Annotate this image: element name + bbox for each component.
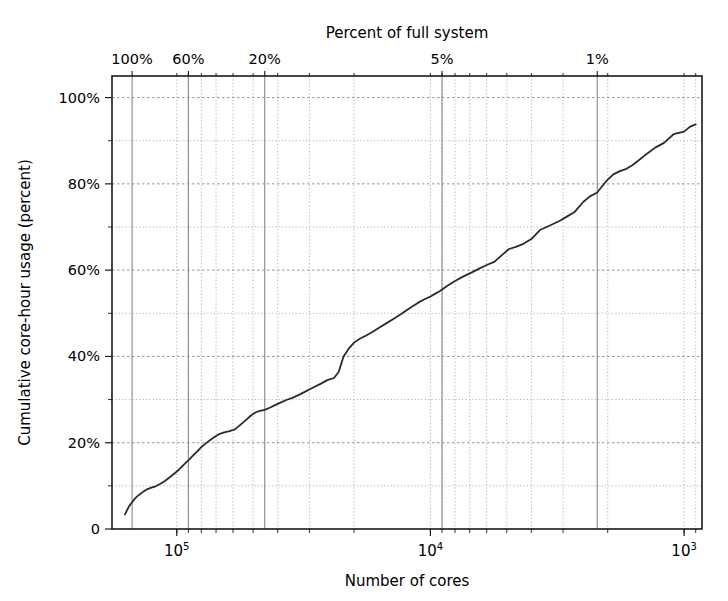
plot-background: [112, 76, 702, 529]
y-tick-label: 40%: [68, 348, 100, 364]
x-axis-title: Number of cores: [345, 572, 470, 590]
chart-canvas: 100%60%20%5%1%105104103020%40%60%80%100%…: [0, 0, 728, 601]
secondary-x-tick-label: 60%: [172, 51, 204, 67]
plot-area: 100%60%20%5%1%105104103020%40%60%80%100%…: [16, 24, 702, 590]
y-tick-label: 20%: [68, 435, 100, 451]
secondary-x-axis-title: Percent of full system: [326, 24, 489, 42]
y-tick-label: 60%: [68, 262, 100, 278]
y-tick-label: 0: [91, 521, 100, 537]
secondary-x-tick-label: 100%: [111, 51, 152, 67]
chart-figure: 100%60%20%5%1%105104103020%40%60%80%100%…: [0, 0, 728, 601]
secondary-x-tick-label: 1%: [586, 51, 609, 67]
y-tick-label: 80%: [68, 176, 100, 192]
y-tick-label: 100%: [59, 90, 100, 106]
secondary-x-tick-label: 5%: [431, 51, 454, 67]
secondary-x-tick-label: 20%: [249, 51, 281, 67]
y-axis-title: Cumulative core-hour usage (percent): [16, 159, 34, 446]
